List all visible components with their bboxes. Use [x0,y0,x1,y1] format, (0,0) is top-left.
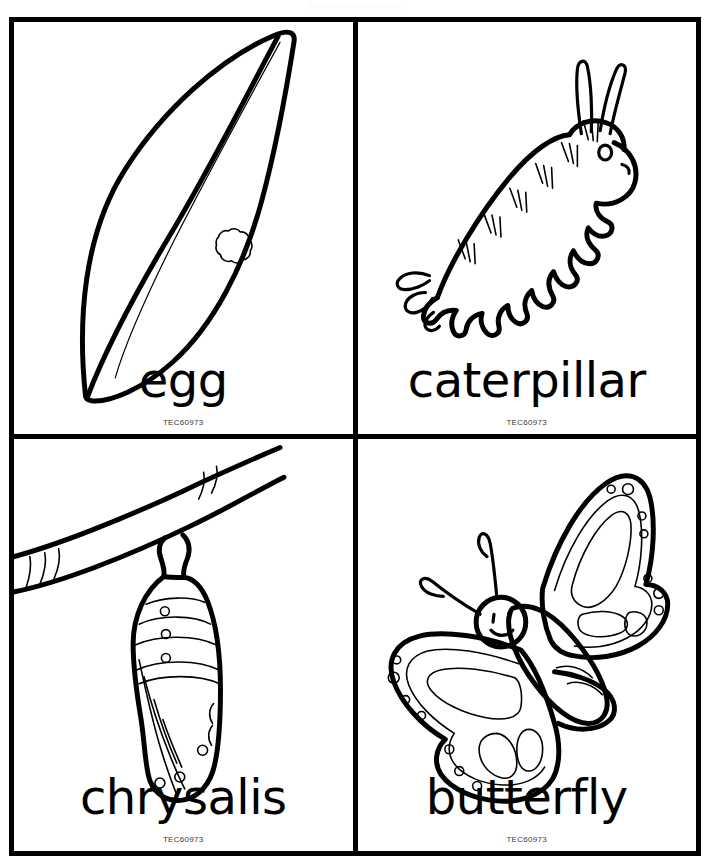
card-code-egg: TEC60973 [14,418,353,428]
flashcard-caterpillar[interactable]: caterpillar TEC60973 [358,22,697,434]
card-label-caterpillar: caterpillar [358,354,697,406]
flashcard-grid: egg TEC60973 [9,17,701,856]
flashcard-egg[interactable]: egg TEC60973 [14,22,353,434]
card-label-chrysalis: chrysalis [14,771,353,823]
flashcard-sheet: butterfly life cycle cards egg TEC60973 [0,0,714,862]
flashcard-chrysalis[interactable]: chrysalis TEC60973 [14,439,353,851]
card-code-butterfly: TEC60973 [358,835,697,845]
scan-ghost-text: butterfly life cycle cards [0,0,714,12]
card-label-butterfly: butterfly [358,771,697,823]
flashcard-butterfly[interactable]: butterfly TEC60973 [358,439,697,851]
card-code-caterpillar: TEC60973 [358,418,697,428]
card-label-egg: egg [14,354,353,406]
card-code-chrysalis: TEC60973 [14,835,353,845]
